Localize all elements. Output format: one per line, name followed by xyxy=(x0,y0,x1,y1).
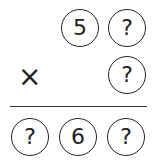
multiplier-digit: ? xyxy=(108,56,146,94)
multiply-sign-icon: × xyxy=(18,63,41,91)
multiplicand-digit-ones: ? xyxy=(108,9,146,47)
sum-line xyxy=(10,106,147,107)
product-digit-ones: ? xyxy=(107,118,145,156)
product-digit-tens: 6 xyxy=(59,118,97,156)
product-digit-hundreds: ? xyxy=(11,118,49,156)
multiplicand-digit-tens: 5 xyxy=(61,9,99,47)
